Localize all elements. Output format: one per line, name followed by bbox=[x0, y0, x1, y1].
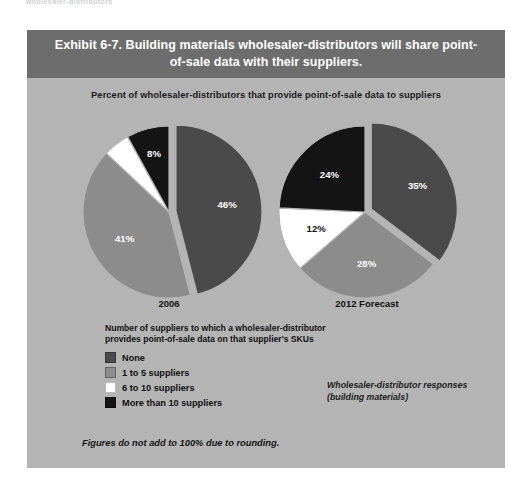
chart-subtitle: Percent of wholesaler-distributors that … bbox=[27, 90, 505, 100]
footnote: Figures do not add to 100% due to roundi… bbox=[82, 438, 279, 448]
legend-title: Number of suppliers to which a wholesale… bbox=[105, 323, 355, 346]
pie-slice-value-label: 8% bbox=[147, 148, 161, 159]
pie-slice-value-label: 5% bbox=[125, 159, 139, 170]
legend-title-line-2: provides point-of-sale data on that supp… bbox=[105, 334, 355, 345]
pie-chart-2006: 46%41%5%8% bbox=[69, 112, 269, 312]
legend-swatch-icon-1-to-5 bbox=[105, 367, 116, 378]
exhibit-page: wholesaler-distributors Exhibit 6-7. Bui… bbox=[0, 0, 532, 491]
pie-slice-value-label: 12% bbox=[307, 223, 327, 234]
legend-label-none: None bbox=[122, 353, 145, 363]
exhibit-panel: Exhibit 6-7. Building materials wholesal… bbox=[27, 30, 505, 468]
pie-axis-label-2012-forecast: 2012 Forecast bbox=[267, 298, 467, 309]
legend-swatch-icon-none bbox=[105, 352, 116, 363]
pie-slice-value-label: 46% bbox=[217, 199, 237, 210]
legend-item-none: None bbox=[105, 351, 355, 365]
pie-slice-value-label: 28% bbox=[357, 258, 377, 269]
legend-label-more-than-10: More than 10 suppliers bbox=[122, 398, 222, 408]
legend: Number of suppliers to which a wholesale… bbox=[105, 323, 355, 411]
pie-charts-area: 46%41%5%8% 35%28%12%24% bbox=[27, 112, 505, 312]
exhibit-title: Exhibit 6-7. Building materials wholesal… bbox=[49, 37, 483, 71]
exhibit-header: Exhibit 6-7. Building materials wholesal… bbox=[27, 30, 505, 78]
pie-slice-value-label: 24% bbox=[320, 169, 340, 180]
legend-label-1-to-5: 1 to 5 suppliers bbox=[122, 368, 189, 378]
source-note: Wholesaler-distributor responses (buildi… bbox=[327, 380, 502, 404]
pie-svg-2012-forecast: 35%28%12%24% bbox=[265, 112, 465, 312]
source-note-line-2: (building materials) bbox=[327, 392, 502, 404]
legend-label-6-to-10: 6 to 10 suppliers bbox=[122, 383, 195, 393]
pie-slice-value-label: 35% bbox=[408, 180, 428, 191]
source-note-line-1: Wholesaler-distributor responses bbox=[327, 380, 502, 392]
legend-swatch-icon-6-to-10 bbox=[105, 382, 116, 393]
legend-item-more-than-10: More than 10 suppliers bbox=[105, 396, 355, 410]
pie-axis-label-2006: 2006 bbox=[69, 298, 269, 309]
pie-slice-value-label: 41% bbox=[115, 233, 135, 244]
legend-item-6-to-10: 6 to 10 suppliers bbox=[105, 381, 355, 395]
pie-chart-2012-forecast: 35%28%12%24% bbox=[265, 112, 465, 312]
pie-slices-2006 bbox=[83, 125, 262, 298]
pie-svg-2006: 46%41%5%8% bbox=[69, 112, 269, 312]
legend-item-1-to-5: 1 to 5 suppliers bbox=[105, 366, 355, 380]
pie-slices-2012-forecast bbox=[279, 123, 457, 298]
legend-items: None 1 to 5 suppliers 6 to 10 suppliers … bbox=[105, 351, 355, 410]
scan-cropped-header-text: wholesaler-distributors bbox=[26, 0, 226, 8]
legend-title-line-1: Number of suppliers to which a wholesale… bbox=[105, 323, 355, 334]
legend-swatch-icon-more-than-10 bbox=[105, 397, 116, 408]
